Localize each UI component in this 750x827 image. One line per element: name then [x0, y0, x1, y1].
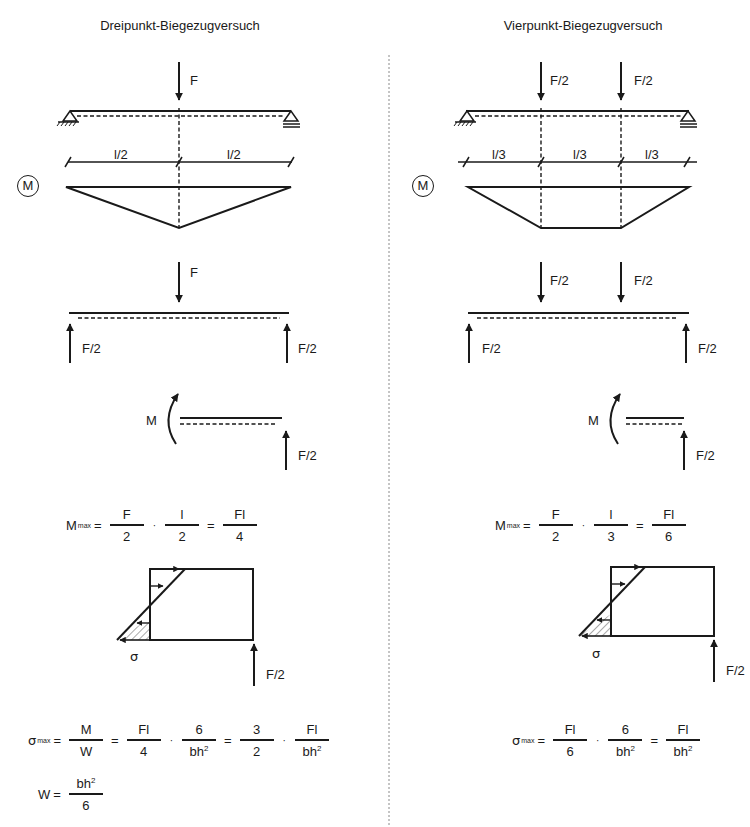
reaction-label: F/2 — [698, 342, 717, 355]
span-label: l/3 — [492, 148, 506, 161]
roller-support-icon — [680, 111, 697, 127]
span-label: l/2 — [227, 148, 241, 161]
stress-label: σ — [130, 650, 138, 663]
stress-distribution — [117, 569, 253, 640]
sigma-max-formula: σmax = MW = Fl4 · 6bh2 = 32 · Flbh2 — [28, 722, 334, 759]
left-title: Dreipunkt-Biegezugversuch — [30, 18, 330, 33]
span-label: l/2 — [114, 148, 128, 161]
load-label: F/2 — [634, 74, 653, 87]
mmax-formula: Mmax = F2 · l2 = Fl4 — [66, 507, 262, 544]
stress-reaction-label: F/2 — [266, 668, 285, 681]
moment-diagram — [468, 187, 689, 228]
left-beam-diagram — [57, 62, 300, 686]
sigma-max-formula: σmax = Fl6 · 6bh2 = Flbh2 — [512, 722, 705, 759]
pinned-support-icon — [454, 111, 476, 126]
load-label: F/2 — [550, 74, 569, 87]
reaction-label: F/2 — [298, 342, 317, 355]
section-moment-label: M — [146, 414, 157, 427]
stress-label: σ — [592, 647, 600, 660]
section-reaction-label: F/2 — [696, 449, 715, 462]
moment-symbol-icon: M — [17, 175, 39, 197]
reaction-label: F/2 — [482, 342, 501, 355]
fbd-load-label: F — [190, 266, 198, 279]
load-label: F — [190, 74, 198, 87]
fbd-load-label: F/2 — [550, 274, 569, 287]
section-moment-label: M — [588, 414, 599, 427]
mmax-formula: Mmax = F2 · l3 = Fl6 — [495, 507, 691, 544]
pinned-support-icon — [57, 111, 79, 126]
stress-distribution — [579, 567, 714, 636]
span-label: l/3 — [573, 148, 587, 161]
section-reaction-label: F/2 — [298, 449, 317, 462]
diagram-canvas — [0, 0, 750, 827]
right-title: Vierpunkt-Biegezugversuch — [433, 18, 733, 33]
moment-arc-arrow — [168, 394, 178, 444]
moment-symbol-icon: M — [412, 175, 434, 197]
reaction-label: F/2 — [82, 342, 101, 355]
stress-reaction-label: F/2 — [726, 664, 745, 677]
fbd-load-label: F/2 — [634, 274, 653, 287]
span-label: l/3 — [645, 148, 659, 161]
roller-support-icon — [283, 111, 300, 127]
section-modulus-formula: W = bh26 — [38, 776, 108, 813]
